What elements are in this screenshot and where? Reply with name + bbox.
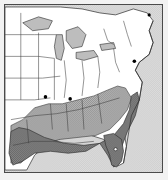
map-vector [5,5,162,172]
locality-dot [148,13,151,16]
map-figure: Eastern United States distribution map E… [0,0,168,180]
map-canvas [5,5,162,172]
locality-dot [68,97,72,101]
locality-dot [133,60,137,64]
map-frame [4,4,163,173]
locality-dot [44,95,48,99]
locality-dot-open [114,148,117,151]
